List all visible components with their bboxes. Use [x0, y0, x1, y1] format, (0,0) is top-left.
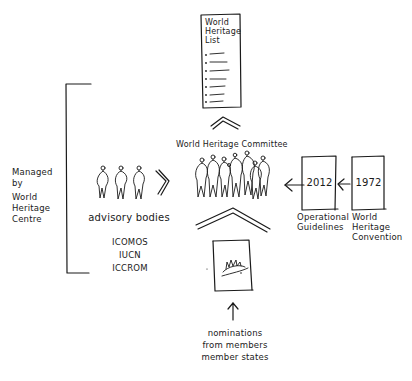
- convention-line-3: Convention: [352, 232, 402, 242]
- managed-line-3: World: [12, 192, 53, 203]
- list-title-line-2: Heritage: [205, 27, 239, 36]
- advisory-members-list: ICOMOS IUCN ICCROM: [100, 236, 160, 275]
- site-sketch-icon: [206, 260, 248, 276]
- committee-figures-icon: [196, 151, 270, 199]
- nominations-line-2: from members: [190, 339, 280, 351]
- operational-guidelines-label: Operational Guidelines: [297, 212, 349, 232]
- world-heritage-list-title: World Heritage List: [205, 18, 239, 45]
- diagram-canvas: [0, 0, 412, 381]
- advisory-member-icomos: ICOMOS: [100, 236, 160, 249]
- advisory-member-iccrom: ICCROM: [100, 262, 160, 275]
- convention-line-2: Heritage: [352, 222, 402, 232]
- guidelines-line-1: Operational: [297, 212, 349, 222]
- nominations-line-3: member states: [190, 351, 280, 363]
- guidelines-line-2: Guidelines: [297, 222, 349, 232]
- managed-line-1: Managed: [12, 167, 53, 178]
- committee-label: World Heritage Committee: [176, 140, 288, 150]
- chevron-up-icon: [211, 117, 240, 129]
- list-bullets: [205, 53, 229, 103]
- guidelines-year: 2012: [303, 178, 336, 188]
- nominations-line-1: nominations: [190, 327, 280, 339]
- management-bracket: [66, 84, 91, 273]
- nominations-label: nominations from members member states: [190, 327, 280, 363]
- convention-label: World Heritage Convention: [352, 212, 402, 242]
- advisory-member-iucn: IUCN: [100, 249, 160, 262]
- managed-line-5: Centre: [12, 214, 53, 225]
- advisory-bodies-label: advisory bodies: [84, 213, 174, 223]
- arrow-up-icon: [228, 303, 238, 320]
- list-title-line-1: World: [205, 18, 239, 27]
- chevron-up-large-icon: [196, 208, 270, 232]
- arrow-left-small-icon: [338, 179, 350, 190]
- managed-line-4: Heritage: [12, 203, 53, 214]
- managed-by-label: Managed by World Heritage Centre: [12, 167, 53, 225]
- convention-line-1: World: [352, 212, 402, 222]
- advisory-figures-icon: [97, 166, 144, 199]
- arrow-left-icon: [285, 179, 304, 191]
- list-title-line-3: List: [205, 36, 239, 45]
- managed-line-2: by: [12, 178, 53, 189]
- chevron-right-icon: [156, 170, 169, 195]
- convention-year: 1972: [353, 178, 384, 188]
- nomination-card: [206, 240, 253, 291]
